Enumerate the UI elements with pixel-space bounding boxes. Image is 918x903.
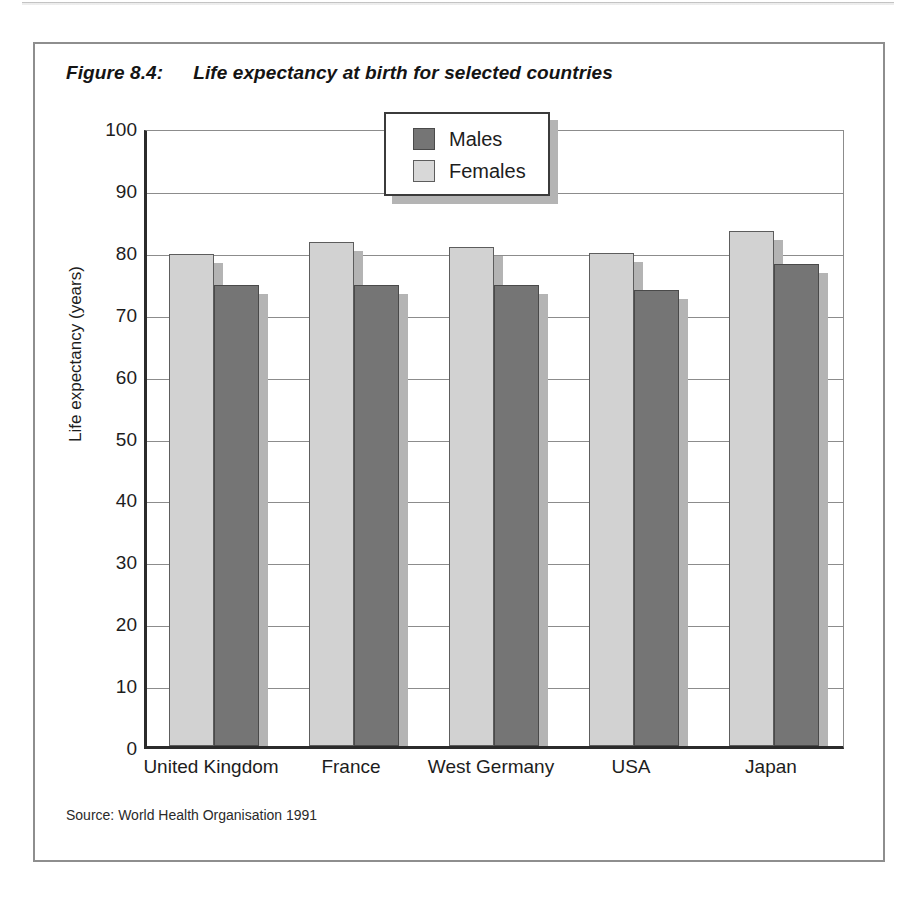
y-tick-20: 20 — [116, 614, 137, 636]
y-tick-0: 0 — [126, 738, 137, 760]
source-note: Source: World Health Organisation 1991 — [66, 807, 317, 823]
y-tick-90: 90 — [116, 181, 137, 203]
y-tick-60: 60 — [116, 367, 137, 389]
x-tick-usa: USA — [611, 756, 650, 778]
y-tick-100: 100 — [105, 119, 137, 141]
bar-males-west-germany — [494, 285, 539, 746]
bar-females-japan — [729, 231, 774, 746]
bar-males-japan — [774, 264, 819, 746]
x-tick-west-germany: West Germany — [428, 756, 554, 778]
y-tick-40: 40 — [116, 490, 137, 512]
bar-females-united-kingdom — [169, 254, 214, 746]
y-tick-80: 80 — [116, 243, 137, 265]
x-tick-united-kingdom: United Kingdom — [143, 756, 278, 778]
legend-label-females: Females — [449, 160, 526, 183]
legend-label-males: Males — [449, 128, 502, 151]
legend-swatch-males-icon — [413, 128, 435, 150]
bar-males-united-kingdom — [214, 285, 259, 746]
bar-males-france — [354, 285, 399, 746]
y-tick-70: 70 — [116, 305, 137, 327]
plot-area — [144, 130, 844, 749]
bar-females-west-germany — [449, 247, 494, 746]
x-tick-france: France — [321, 756, 380, 778]
x-tick-japan: Japan — [745, 756, 797, 778]
chart-legend: Males Females — [384, 112, 550, 196]
figure-frame: Figure 8.4:Life expectancy at birth for … — [33, 42, 885, 862]
legend-swatch-females-icon — [413, 160, 435, 182]
bar-males-usa — [634, 290, 679, 746]
bar-females-usa — [589, 253, 634, 746]
y-tick-10: 10 — [116, 676, 137, 698]
page-edge-artifact — [22, 2, 894, 5]
legend-item-males: Males — [413, 124, 502, 154]
bar-females-france — [309, 242, 354, 746]
legend-item-females: Females — [413, 156, 526, 186]
y-tick-50: 50 — [116, 429, 137, 451]
x-axis-tick-labels: United KingdomFranceWest GermanyUSAJapan — [144, 756, 844, 786]
chart-area: Life expectancy (years) 1009080706050403… — [35, 44, 887, 864]
y-tick-30: 30 — [116, 552, 137, 574]
y-axis-tick-labels: 1009080706050403020100 — [65, 130, 137, 749]
